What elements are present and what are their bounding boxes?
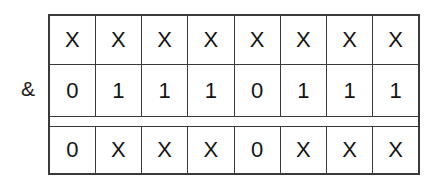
bit-cell: X [327, 15, 373, 65]
bit-cell: X [95, 127, 141, 175]
bit-cell: X [280, 127, 326, 175]
bit-cell: 0 [234, 127, 280, 175]
separator-bar [49, 117, 419, 127]
bit-cell: X [234, 15, 280, 65]
table-row-mask: X X X X X X X X [49, 15, 419, 65]
bit-cell: 1 [327, 65, 373, 117]
bit-cell: 0 [49, 127, 95, 175]
bit-cell: 1 [280, 65, 326, 117]
bit-cell: 1 [188, 65, 234, 117]
bitwise-and-figure: & X X X X X X X X 0 1 1 1 0 1 1 [0, 0, 433, 177]
table-row-operand: 0 1 1 1 0 1 1 1 [49, 65, 419, 117]
result-separator-rule [49, 117, 419, 127]
bit-cell: X [188, 127, 234, 175]
bit-cell: X [373, 15, 419, 65]
bit-cell: 1 [95, 65, 141, 117]
bit-cell: 0 [49, 65, 95, 117]
bit-cell: X [327, 127, 373, 175]
bit-cell: X [49, 15, 95, 65]
bit-cell: X [373, 127, 419, 175]
bit-cell: 0 [234, 65, 280, 117]
table-row-result: 0 X X X 0 X X X [49, 127, 419, 175]
bit-cell: X [142, 15, 188, 65]
bit-cell: 1 [373, 65, 419, 117]
bit-table: X X X X X X X X 0 1 1 1 0 1 1 1 [48, 14, 420, 175]
bit-cell: X [188, 15, 234, 65]
bit-cell: 1 [142, 65, 188, 117]
and-operator-label: & [14, 74, 42, 104]
bit-cell: X [142, 127, 188, 175]
bit-cell: X [280, 15, 326, 65]
bit-cell: X [95, 15, 141, 65]
